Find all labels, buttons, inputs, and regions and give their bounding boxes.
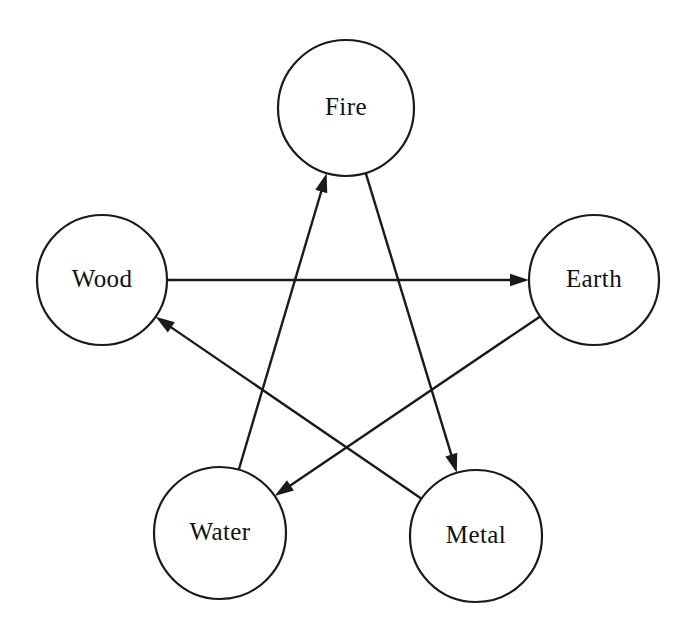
diagram-canvas: FireWoodEarthWaterMetal — [0, 0, 690, 634]
node-label-fire: Fire — [325, 93, 367, 120]
node-earth[interactable]: Earth — [529, 215, 659, 345]
edge-earth-water — [275, 316, 540, 496]
node-water[interactable]: Water — [154, 467, 286, 599]
node-wood[interactable]: Wood — [37, 215, 167, 345]
arrow-head-water-fire — [315, 173, 327, 193]
node-metal[interactable]: Metal — [410, 470, 542, 602]
node-label-metal: Metal — [446, 521, 506, 548]
nodes-layer: FireWoodEarthWaterMetal — [37, 40, 659, 602]
arrow-head-fire-metal — [445, 453, 457, 473]
node-label-earth: Earth — [566, 265, 622, 292]
node-fire[interactable]: Fire — [278, 40, 414, 176]
arrow-head-metal-wood — [156, 317, 175, 333]
node-label-wood: Wood — [72, 265, 133, 292]
node-label-water: Water — [189, 518, 250, 545]
edges-layer — [156, 173, 541, 499]
edge-wood-earth — [167, 274, 529, 286]
arrow-head-earth-water — [275, 480, 294, 496]
edge-fire-metal — [366, 173, 457, 473]
arrow-head-wood-earth — [510, 274, 529, 286]
five-elements-diagram: FireWoodEarthWaterMetal — [0, 0, 690, 634]
